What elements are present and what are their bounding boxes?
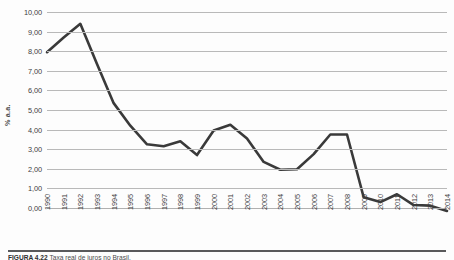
- caption-body: Taxa real de juros no Brasil.: [49, 254, 130, 260]
- x-tick-label: 1992: [76, 194, 85, 210]
- gridline: [47, 110, 447, 111]
- y-tick-label: 10,00: [24, 8, 42, 17]
- plot-area: [47, 12, 447, 208]
- y-tick-label: 8,00: [28, 47, 42, 56]
- gridline: [47, 130, 447, 131]
- figure-container: % a.a. 10,009,008,007,006,005,004,003,00…: [0, 0, 454, 260]
- x-tick-label: 2000: [209, 194, 218, 210]
- caption-label: FIGURA 4.22: [8, 254, 48, 260]
- y-axis-tick-labels: 10,009,008,007,006,005,004,003,002,001,0…: [14, 12, 44, 208]
- gridline: [47, 90, 447, 91]
- x-tick-label: 1994: [109, 194, 118, 210]
- y-tick-label: 9,00: [28, 27, 42, 36]
- gridline: [47, 149, 447, 150]
- x-axis-tick-labels: 1990199119921993199419951996199719981999…: [47, 210, 447, 244]
- x-tick-label: 2010: [376, 194, 385, 210]
- x-tick-label: 1990: [43, 194, 52, 210]
- gridline: [47, 51, 447, 52]
- gridline: [47, 32, 447, 33]
- x-tick-label: 2002: [243, 194, 252, 210]
- caption-divider: [8, 250, 446, 252]
- y-tick-label: 6,00: [28, 86, 42, 95]
- x-tick-label: 1997: [159, 194, 168, 210]
- y-axis-title: % a.a.: [0, 84, 14, 146]
- x-tick-label: 2009: [359, 194, 368, 210]
- x-tick-label: 2005: [293, 194, 302, 210]
- gridline: [47, 71, 447, 72]
- gridline: [47, 169, 447, 170]
- x-tick-label: 2014: [443, 194, 452, 210]
- x-tick-label: 2011: [393, 195, 402, 211]
- x-tick-label: 1995: [126, 194, 135, 210]
- x-tick-label: 2007: [326, 194, 335, 210]
- x-tick-label: 1998: [176, 194, 185, 210]
- x-tick-label: 2013: [426, 194, 435, 210]
- y-tick-label: 5,00: [28, 106, 42, 115]
- x-tick-label: 2004: [276, 194, 285, 210]
- y-tick-label: 3,00: [28, 145, 42, 154]
- x-tick-label: 2006: [309, 194, 318, 210]
- x-tick-label: 2012: [409, 194, 418, 210]
- figure-caption: FIGURA 4.22 Taxa real de juros no Brasil…: [8, 254, 446, 260]
- y-tick-label: 4,00: [28, 125, 42, 134]
- x-tick-label: 1991: [59, 194, 68, 210]
- y-tick-label: 1,00: [28, 184, 42, 193]
- gridline: [47, 188, 447, 189]
- x-tick-label: 2001: [226, 194, 235, 210]
- x-tick-label: 2008: [343, 194, 352, 210]
- y-tick-label: 0,00: [28, 204, 42, 213]
- x-tick-label: 1996: [143, 194, 152, 210]
- y-tick-label: 7,00: [28, 66, 42, 75]
- x-tick-label: 2003: [259, 194, 268, 210]
- y-tick-label: 2,00: [28, 164, 42, 173]
- gridline: [47, 12, 447, 13]
- x-tick-label: 1999: [193, 194, 202, 210]
- x-tick-label: 1993: [93, 194, 102, 210]
